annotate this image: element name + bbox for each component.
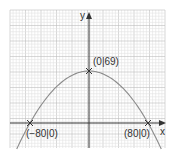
parabola-chart: y x (0|69) (−80|0) (80|0) (0, 0, 175, 157)
vertex-label: (0|69) (93, 56, 119, 67)
left-root-label: (−80|0) (26, 128, 58, 139)
right-root-label: (80|0) (124, 128, 150, 139)
y-axis-label: y (80, 10, 85, 21)
x-axis-label: x (160, 126, 165, 137)
